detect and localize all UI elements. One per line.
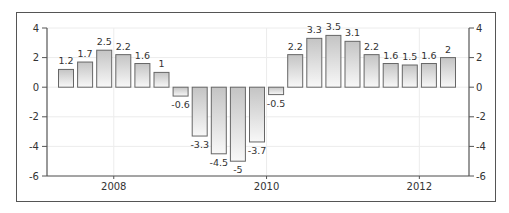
data-label: 3.5: [326, 21, 341, 32]
bar: [59, 69, 74, 87]
bar: [441, 58, 456, 88]
data-label: 1.6: [383, 50, 398, 61]
y-tick-label-left: -6: [29, 171, 39, 182]
data-label: -0.5: [267, 98, 286, 109]
y-tick-label-left: 4: [33, 23, 39, 34]
data-label: -4.5: [210, 157, 229, 168]
data-label: 1.2: [58, 55, 73, 66]
data-label: 1.6: [135, 50, 150, 61]
bar: [135, 64, 150, 88]
bar: [173, 87, 188, 96]
data-label: 1.5: [402, 51, 417, 62]
bar: [154, 72, 169, 87]
y-tick-label-right: -2: [476, 111, 486, 122]
y-tick-label-right: -4: [476, 141, 486, 152]
bar: [211, 87, 226, 154]
bar: [326, 35, 341, 87]
bar: [383, 64, 398, 88]
y-tick-label-right: -6: [476, 171, 486, 182]
bar: [307, 38, 322, 87]
x-tick-label: 2010: [254, 181, 279, 192]
bar: [192, 87, 207, 136]
bar: [97, 50, 112, 87]
bar: [230, 87, 245, 161]
data-label: -3.7: [248, 145, 267, 156]
bar: [421, 64, 436, 88]
data-label: -5: [233, 164, 242, 175]
data-label: 2: [445, 44, 451, 55]
data-label: 2.5: [97, 36, 112, 47]
y-tick-label-left: 2: [33, 52, 39, 63]
data-label: 3.1: [345, 27, 360, 38]
data-label: -0.6: [171, 99, 190, 110]
bar: [250, 87, 265, 142]
y-tick-label-left: 0: [33, 82, 39, 93]
data-label: 2.2: [288, 41, 303, 52]
data-label: 3.3: [307, 24, 322, 35]
bar: [269, 87, 284, 94]
bar-chart: 1.21.72.52.21.61-0.6-3.3-4.5-5-3.7-0.52.…: [0, 0, 509, 213]
data-label: 1: [158, 58, 164, 69]
y-tick-label-right: 0: [476, 82, 482, 93]
data-label: 2.2: [116, 41, 131, 52]
y-tick-label-left: -2: [29, 111, 39, 122]
y-tick-label-left: -4: [29, 141, 39, 152]
y-tick-label-right: 4: [476, 23, 482, 34]
data-label: -3.3: [190, 139, 209, 150]
bar: [364, 55, 379, 88]
data-label: 1.6: [421, 50, 436, 61]
bar: [402, 65, 417, 87]
x-tick-label: 2012: [407, 181, 432, 192]
bar: [78, 62, 93, 87]
x-tick-label: 2008: [101, 181, 126, 192]
data-label: 1.7: [78, 48, 93, 59]
bar: [345, 41, 360, 87]
data-label: 2.2: [364, 41, 379, 52]
bar: [288, 55, 303, 88]
bar: [116, 55, 131, 88]
y-tick-label-right: 2: [476, 52, 482, 63]
